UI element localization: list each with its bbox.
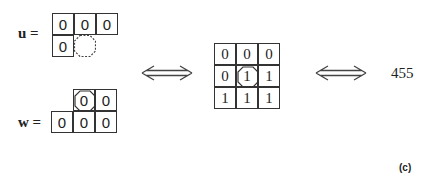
double-arrow-icon-left — [141, 64, 193, 82]
u-cell-r1c2: 0 — [74, 13, 96, 35]
mid-cell-r3c3: 1 — [258, 87, 280, 109]
w-cell-r1c1-octagon: 0 — [73, 89, 95, 111]
dashed-octagon-icon — [74, 35, 96, 57]
u-cell-r2c2-dashed-octagon — [74, 35, 96, 57]
double-arrow-icon-right — [315, 64, 367, 82]
w-cell-r1c2: 0 — [95, 89, 117, 111]
w-label: w = — [18, 114, 41, 131]
w-cell-r2c1: 0 — [51, 111, 73, 133]
mid-cell-r1c2: 0 — [236, 43, 258, 65]
w-cell-r2c3: 0 — [95, 111, 117, 133]
mid-cell-r1c1: 0 — [214, 43, 236, 65]
result-value: 455 — [391, 65, 414, 82]
figure-caption: (c) — [399, 162, 411, 173]
u-cell-r1c1: 0 — [52, 13, 74, 35]
u-cell-r1c3: 0 — [96, 13, 118, 35]
mid-cell-r2c3: 1 — [258, 65, 280, 87]
mid-cell-r1c3: 0 — [258, 43, 280, 65]
mid-cell-r3c2: 1 — [236, 87, 258, 109]
u-cell-r2c1: 0 — [52, 35, 74, 57]
w-cell-r2c2: 0 — [73, 111, 95, 133]
mid-cell-r3c1: 1 — [214, 87, 236, 109]
mid-cell-r2c1: 0 — [214, 65, 236, 87]
mid-cell-r2c2-octagon: 1 — [236, 65, 258, 87]
u-label: u = — [18, 25, 39, 42]
